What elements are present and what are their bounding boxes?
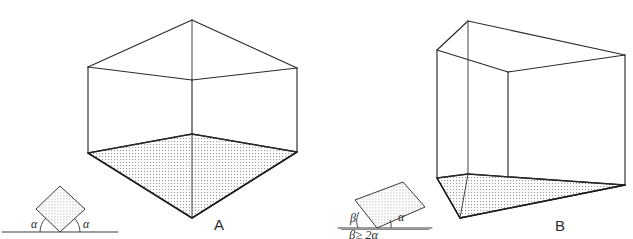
figure-root: A α α — [0, 0, 633, 239]
panel-a-inset-arc-left — [40, 218, 46, 232]
panel-b-top-back-right — [468, 21, 625, 55]
panel-a-rim-right — [192, 68, 297, 80]
panel-a-box — [88, 20, 297, 218]
panel-b-inset-caption: β≥ 2α — [348, 228, 378, 239]
panel-b-inset: β α β≥ 2α — [338, 182, 432, 239]
panel-b-floor-shaded — [437, 174, 625, 218]
panel-b-top-front-left — [437, 50, 508, 72]
panel-b-box — [437, 21, 625, 218]
panel-b-inset-arc-beta — [357, 212, 359, 228]
panel-b-inset-angle-beta: β — [349, 211, 356, 225]
panel-a-inset: α α — [2, 186, 118, 232]
panel-b-top-front-right — [508, 55, 625, 72]
panel-a-label: A — [214, 216, 224, 233]
panel-a-inset-square — [36, 186, 85, 232]
panel-a-rim-left — [88, 67, 192, 80]
panel-b-inset-angle-alpha: α — [398, 210, 405, 224]
panel-a-top-edge-left — [88, 20, 192, 67]
panel-a-inset-arc-right — [74, 218, 80, 232]
figure-svg: A α α — [0, 0, 633, 239]
panel-a-top-edge-right — [192, 20, 297, 68]
panel-b-label: B — [555, 217, 565, 234]
panel-a-inset-angle-alpha-right: α — [83, 217, 90, 231]
panel-b-top-back-left — [437, 21, 468, 50]
panel-a-inset-angle-alpha-left: α — [31, 217, 38, 231]
